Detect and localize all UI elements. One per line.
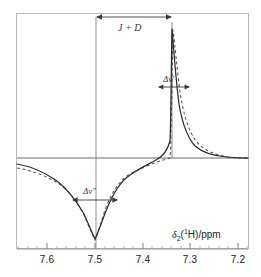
- x-tick-label-3: 7.3: [170, 254, 210, 265]
- fitted-dashed-curve: [17, 30, 248, 240]
- x-tick-label-1: 7.5: [75, 254, 115, 265]
- chart-canvas: [0, 0, 261, 277]
- annotation-delta-nu-prime-arrow: [158, 84, 190, 89]
- experimental-solid-curve: [17, 29, 248, 239]
- nmr-spectrum-figure: 7.6 7.5 7.4 7.3 7.2 δ2(1H)/ppm J + D Δν′…: [0, 0, 261, 277]
- x-tick-label-0: 7.6: [27, 254, 67, 265]
- annotation-label-delta-nu-double-prime: Δν″: [83, 186, 96, 196]
- x-tick-label-4: 7.2: [218, 254, 258, 265]
- x-axis-title-units: )/ppm: [195, 229, 221, 240]
- x-axis-title-nucleus: H: [188, 229, 195, 240]
- x-tick-label-2: 7.4: [123, 254, 163, 265]
- annotation-label-j-plus-d: J + D: [118, 22, 141, 33]
- annotation-j-plus-d-arrow: [96, 14, 172, 20]
- x-axis-title: δ2(1H)/ppm: [172, 228, 221, 242]
- annotation-label-delta-nu-prime: Δν′: [163, 74, 174, 84]
- x-axis: [17, 243, 248, 249]
